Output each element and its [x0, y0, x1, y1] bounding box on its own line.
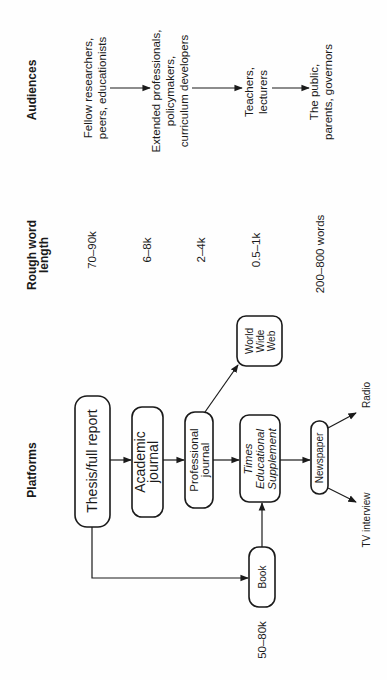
svg-text:length: length	[37, 237, 51, 273]
svg-text:Educational: Educational	[254, 429, 266, 490]
audience-researchers: Fellow researchers, peers, educationists	[82, 37, 108, 140]
platform-book: Book	[249, 547, 275, 607]
platform-thesis: Thesis/full report	[75, 396, 110, 527]
platform-professional-journal: Professional journal	[185, 412, 213, 508]
platforms-header: Platforms	[25, 442, 39, 498]
svg-text:Wide: Wide	[255, 329, 266, 352]
svg-text:policymakers,: policymakers,	[164, 56, 176, 126]
audiences-header: Audiences	[25, 59, 39, 120]
svg-text:Thesis/full report: Thesis/full report	[84, 409, 100, 513]
platform-world-wide-web: World Wide Web	[237, 316, 282, 366]
audience-public: The public, parents, governors	[308, 44, 334, 140]
audience-teachers: Teachers, lecturers	[243, 67, 269, 117]
arrow-thesis-book	[92, 527, 248, 578]
length-academic: 6–8k	[141, 237, 153, 262]
svg-text:World: World	[244, 328, 255, 354]
audience-professionals: Extended professionals, policymakers, cu…	[150, 30, 190, 153]
svg-text:Times: Times	[242, 443, 254, 474]
length-thesis: 70–90k	[86, 231, 98, 269]
length-tes: 0.5–1k	[250, 232, 262, 267]
svg-text:journal: journal	[145, 441, 161, 484]
svg-text:Web: Web	[266, 330, 277, 351]
svg-text:peers, educationists: peers, educationists	[96, 37, 108, 140]
arrow-newspaper-tv	[328, 488, 356, 502]
length-book: 50–80k	[256, 621, 268, 659]
svg-text:Extended professionals,: Extended professionals,	[150, 30, 162, 153]
svg-text:Book: Book	[257, 565, 268, 589]
svg-text:parents, governors: parents, governors	[322, 44, 334, 140]
arrow-newspaper-radio	[328, 413, 356, 428]
platform-tv-interview: TV interview	[361, 492, 372, 548]
svg-text:Newspaper: Newspaper	[314, 432, 325, 483]
svg-text:Supplement: Supplement	[266, 428, 278, 490]
svg-text:Teachers,: Teachers,	[243, 67, 255, 117]
length-newspaper: 200–800 words	[314, 214, 326, 293]
svg-text:Fellow researchers,: Fellow researchers,	[82, 38, 94, 138]
platform-tes: Times Educational Supplement	[240, 415, 280, 502]
platform-newspaper: Newspaper	[311, 421, 328, 494]
svg-text:lecturers: lecturers	[257, 70, 269, 114]
platform-radio: Radio	[361, 382, 372, 409]
length-professional: 2–4k	[195, 237, 207, 262]
platform-academic-journal: Academic journal	[132, 407, 163, 517]
svg-text:journal: journal	[199, 443, 211, 479]
svg-text:The public,: The public,	[308, 64, 320, 120]
arrow-professional-www	[205, 365, 238, 412]
svg-text:curriculum developers: curriculum developers	[178, 35, 190, 148]
dissemination-diagram: Platforms Rough word length Audiences Fe…	[0, 0, 387, 680]
word-length-header: Rough word length	[25, 220, 51, 290]
